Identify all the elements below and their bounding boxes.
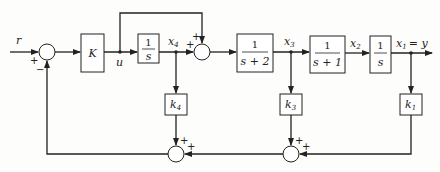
- feedback-gain-k4: k4: [165, 94, 187, 115]
- svg-text:1: 1: [252, 39, 258, 50]
- signal-x4-label: x4: [168, 35, 179, 49]
- transfer-block-1-over-s-plus-1: 1 s + 1: [310, 36, 345, 73]
- feedback-gain-k3: k3: [280, 94, 302, 115]
- input-signal-r: r: [10, 34, 38, 52]
- svg-text:x4: x4: [168, 35, 179, 49]
- svg-text:−: −: [36, 64, 44, 75]
- svg-text:1: 1: [377, 40, 383, 51]
- transfer-block-1-over-s-plus-2: 1 s + 2: [237, 34, 273, 72]
- svg-text:1: 1: [324, 40, 330, 51]
- feedback-gain-k1: k1: [400, 94, 422, 115]
- svg-text:+: +: [187, 141, 195, 152]
- summing-junction-2: + +: [186, 31, 210, 60]
- svg-text:r: r: [16, 34, 22, 47]
- block-diagram: r + − K u 1 s x4 + + 1 s +: [0, 0, 440, 172]
- signal-u-label: u: [116, 56, 123, 69]
- summing-junction-4: + +: [283, 135, 310, 162]
- svg-text:1: 1: [145, 37, 151, 48]
- svg-text:K: K: [87, 47, 97, 60]
- signal-x2-label: x2: [350, 37, 361, 51]
- svg-text:x2: x2: [350, 37, 361, 51]
- svg-text:s + 1: s + 1: [313, 56, 342, 69]
- integrator-block-2: 1 s: [370, 36, 391, 73]
- summing-junction-3: + +: [168, 135, 195, 162]
- svg-text:+: +: [192, 31, 200, 42]
- signal-x1-y-label: x1= y: [396, 37, 428, 51]
- signal-x3-label: x3: [284, 35, 295, 49]
- svg-text:x3: x3: [284, 35, 295, 49]
- integrator-block-1: 1 s: [138, 34, 159, 63]
- summing-junction-1: + −: [30, 44, 55, 75]
- svg-text:s: s: [146, 50, 152, 63]
- svg-text:+: +: [302, 141, 310, 152]
- svg-text:s + 2: s + 2: [241, 55, 270, 68]
- svg-text:s: s: [378, 56, 384, 69]
- gain-block-K: K: [81, 34, 104, 72]
- svg-text:x1= y: x1= y: [396, 37, 428, 51]
